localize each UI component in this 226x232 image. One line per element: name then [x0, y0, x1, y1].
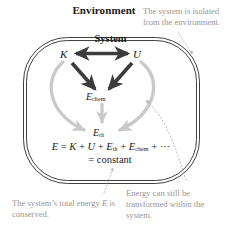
- annotation-leader-lines: [104, 32, 192, 193]
- system-label: System: [0, 33, 226, 45]
- conservation-equation-line2: = constant: [0, 154, 226, 166]
- conservation-equation-line1: E = K + U + Eth + Echem + ···: [0, 141, 226, 153]
- annotation-energy-conserved: The system’s total energy E is conserved…: [12, 198, 116, 220]
- annotation-conserved-prefix: The system’s total energy: [12, 198, 102, 208]
- equation-equals: =: [58, 141, 69, 152]
- equation-plus-1: +: [76, 141, 87, 152]
- thermal-energy-symbol: Eth: [93, 127, 104, 139]
- energy-conservation-diagram: Environment System K U Echem Eth E = K +…: [0, 0, 226, 232]
- annotation-energy-transformed: Energy can still be transformed within t…: [126, 188, 226, 221]
- kinetic-energy-symbol: K: [60, 48, 67, 60]
- equation-potential: U: [88, 141, 96, 152]
- annotation-isolated-system: The system is isolated from the environm…: [143, 6, 225, 28]
- chemical-energy-subscript: chem: [92, 96, 105, 102]
- equation-ellipsis: ···: [160, 141, 171, 152]
- equation-chemical-subscript: chem: [135, 146, 148, 152]
- dark-conversion-arrows: [72, 63, 132, 89]
- equation-plus-4: +: [149, 141, 160, 152]
- equation-plus-3: +: [118, 141, 129, 152]
- thermal-energy-subscript: th: [99, 132, 104, 138]
- equation-plus-2: +: [95, 141, 106, 152]
- potential-energy-symbol: U: [133, 48, 141, 60]
- chemical-energy-symbol: Echem: [86, 91, 106, 103]
